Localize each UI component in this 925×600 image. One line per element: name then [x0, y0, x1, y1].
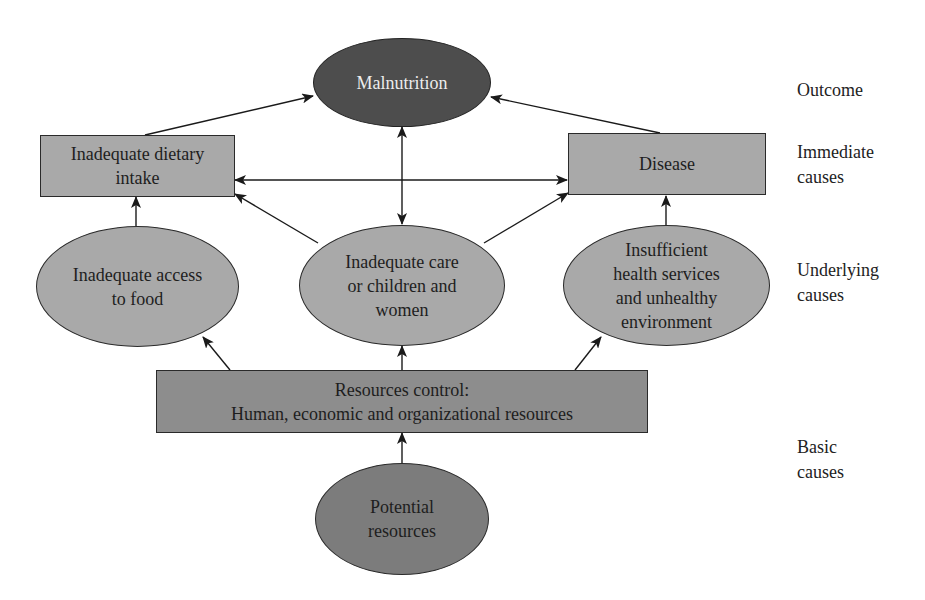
node-label: Potential [368, 495, 436, 519]
edge-resources-to-access [203, 337, 230, 370]
node-label: environment [613, 310, 719, 334]
node-label: Inadequate access [73, 263, 202, 287]
level-label-text: Outcome [797, 80, 863, 100]
node-dietary-intake: Inadequate dietary intake [40, 135, 235, 197]
node-health-services: Insufficient health services and unhealt… [563, 225, 770, 346]
edge-resources-to-health [575, 337, 601, 370]
level-label-text: Immediate [797, 140, 874, 165]
node-label: Human, economic and organizational resou… [231, 402, 573, 426]
level-label-text: causes [797, 165, 874, 190]
node-label: Malnutrition [357, 71, 448, 95]
node-label: health services [613, 262, 719, 286]
edge-disease-to-malnutrition [491, 97, 660, 133]
level-label-text: causes [797, 283, 879, 308]
level-label-text: Basic [797, 435, 844, 460]
node-label: Disease [639, 152, 695, 176]
level-label-text: Underlying [797, 258, 879, 283]
level-label-basic: Basic causes [797, 435, 844, 485]
node-label: Inadequate dietary [71, 142, 204, 166]
level-label-text: causes [797, 460, 844, 485]
node-care: Inadequate care or children and women [299, 225, 505, 346]
node-label: resources [368, 519, 436, 543]
node-label: Resources control: [231, 378, 573, 402]
node-label: or children and [345, 274, 458, 298]
node-resources-control: Resources control: Human, economic and o… [156, 370, 648, 433]
node-label: and unhealthy [613, 286, 719, 310]
node-label: Inadequate care [345, 250, 458, 274]
node-label: intake [71, 166, 204, 190]
node-label: Insufficient [613, 238, 719, 262]
edge-dietary-to-malnutrition [145, 96, 313, 135]
node-label: women [345, 298, 458, 322]
node-malnutrition: Malnutrition [313, 38, 491, 127]
level-label-outcome: Outcome [797, 78, 863, 103]
node-disease: Disease [568, 133, 766, 195]
edge-care-to-disease [484, 193, 568, 243]
edge-care-to-dietary [235, 194, 318, 243]
node-potential-resources: Potential resources [315, 463, 489, 575]
node-access-food: Inadequate access to food [36, 226, 239, 347]
level-label-immediate: Immediate causes [797, 140, 874, 190]
node-label: to food [73, 287, 202, 311]
level-label-underlying: Underlying causes [797, 258, 879, 308]
